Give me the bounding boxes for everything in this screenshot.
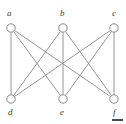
node-b [59, 24, 67, 32]
node-label-a: a [7, 9, 12, 18]
graph-canvas [0, 0, 126, 124]
edge-layer [11, 30, 114, 96]
node-d [7, 95, 15, 103]
node-label-b: b [60, 9, 65, 18]
node-label-c: c [112, 9, 116, 18]
node-c [110, 24, 118, 32]
corner-rule-mark [112, 119, 123, 121]
node-e [59, 95, 67, 103]
node-a [7, 24, 15, 32]
node-label-e: e [60, 108, 64, 117]
node-f [110, 95, 118, 103]
graph-figure: abcdef [0, 0, 126, 124]
node-label-f: f [113, 108, 116, 117]
node-label-d: d [8, 108, 13, 117]
